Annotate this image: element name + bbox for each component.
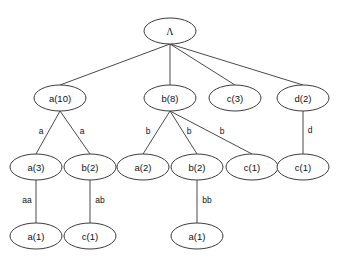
node-label: a(1) bbox=[28, 231, 45, 242]
edge-label: b bbox=[146, 126, 151, 136]
tree-edge bbox=[170, 111, 252, 154]
tree-node: c(1) bbox=[226, 154, 278, 180]
tree-node: b(2) bbox=[171, 154, 223, 180]
tree-node: c(1) bbox=[277, 154, 329, 180]
node-label: a(1) bbox=[189, 231, 206, 242]
edge-label: aa bbox=[22, 195, 32, 205]
node-label: a(3) bbox=[28, 162, 45, 173]
node-label: a(2) bbox=[135, 162, 152, 173]
edge-label: b bbox=[187, 126, 192, 136]
edge-label: bb bbox=[202, 195, 212, 205]
tree-canvas: aabbbdaaabbb Λa(10)b(8)c(3)d(2)a(3)b(2)a… bbox=[0, 0, 338, 263]
tree-node: a(2) bbox=[117, 154, 169, 180]
node-label: Λ bbox=[166, 26, 174, 37]
tree-node: c(1) bbox=[64, 223, 116, 249]
edge-label: ab bbox=[95, 195, 105, 205]
tree-node: b(2) bbox=[64, 154, 116, 180]
edge-label: a bbox=[80, 126, 85, 136]
tree-edge bbox=[60, 44, 170, 85]
node-label: c(3) bbox=[227, 93, 243, 104]
edge-label: a bbox=[39, 126, 44, 136]
node-label: d(2) bbox=[295, 93, 312, 104]
edge-label: d bbox=[308, 125, 313, 135]
node-label: c(1) bbox=[244, 162, 260, 173]
tree-node: c(3) bbox=[209, 85, 261, 111]
node-label: c(1) bbox=[82, 231, 98, 242]
tree-node: a(1) bbox=[10, 223, 62, 249]
tree-node: a(10) bbox=[34, 85, 86, 111]
tree-node: d(2) bbox=[277, 85, 329, 111]
tree-node: a(1) bbox=[171, 223, 223, 249]
tree-edge bbox=[170, 44, 235, 85]
tree-diagram: aabbbdaaabbb Λa(10)b(8)c(3)d(2)a(3)b(2)a… bbox=[0, 0, 338, 263]
edges-layer bbox=[36, 44, 303, 223]
node-label: b(8) bbox=[162, 93, 179, 104]
tree-edge bbox=[60, 111, 90, 154]
node-label: c(1) bbox=[295, 162, 311, 173]
edge-label: b bbox=[220, 126, 225, 136]
tree-node: a(3) bbox=[10, 154, 62, 180]
tree-node: b(8) bbox=[144, 85, 196, 111]
tree-node: Λ bbox=[144, 18, 196, 44]
tree-edge bbox=[170, 111, 197, 154]
node-label: b(2) bbox=[189, 162, 206, 173]
node-label: b(2) bbox=[82, 162, 99, 173]
tree-edge bbox=[170, 44, 303, 85]
node-label: a(10) bbox=[49, 93, 71, 104]
